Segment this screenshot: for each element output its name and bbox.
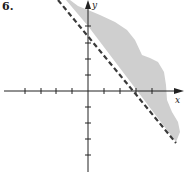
y-axis-arrow-icon [85,0,91,9]
x-axis-arrow-icon [174,88,184,94]
x-axis-label: x [175,95,180,105]
inequality-graph: x y [0,0,185,179]
shaded-solution-region [66,0,180,142]
y-axis-label: y [91,0,98,10]
